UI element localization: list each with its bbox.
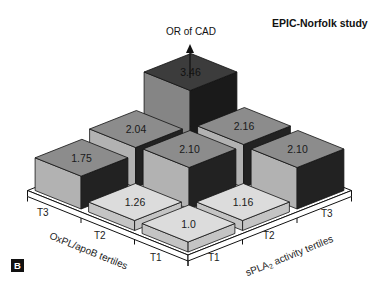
panel-label: B xyxy=(11,259,24,272)
bar-value-label: 2.04 xyxy=(126,123,147,135)
bar-value-label: 2.10 xyxy=(287,143,308,155)
z-axis-label: OR of CAD xyxy=(166,26,216,37)
bar-value-label: 2.10 xyxy=(179,143,200,155)
y-tick-t1: T1 xyxy=(150,252,162,263)
x-tick-t2: T2 xyxy=(263,230,275,241)
bar-value-label: 1.0 xyxy=(181,218,196,230)
x-tick-t3: T3 xyxy=(321,208,333,219)
x-tick-t1: T1 xyxy=(208,252,220,263)
chart-title: EPIC-Norfolk study xyxy=(272,17,368,29)
bar-value-label: 1.75 xyxy=(71,152,92,164)
y-tick-t3: T3 xyxy=(37,207,49,218)
bar-value-label: 2.16 xyxy=(234,120,255,132)
bar-value-label: 1.26 xyxy=(125,196,146,208)
bar-value-label: 1.16 xyxy=(233,196,254,208)
y-tick-t2: T2 xyxy=(94,230,106,241)
